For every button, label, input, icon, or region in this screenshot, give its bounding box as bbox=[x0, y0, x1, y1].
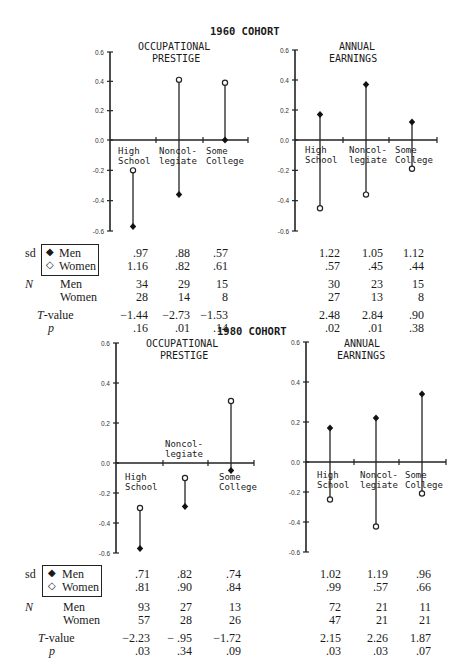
cat-label-nc-op1980: Noncol-legiate bbox=[165, 439, 203, 459]
value: .66 bbox=[401, 580, 431, 595]
value: 21 bbox=[401, 613, 431, 628]
svg-text:0.2: 0.2 bbox=[95, 107, 104, 114]
value: .61 bbox=[198, 259, 228, 274]
cat-label-nc-ae1960: Noncol-legiate bbox=[349, 145, 387, 165]
value: .03 bbox=[358, 644, 388, 659]
chart-title-op-1980-l1: OCCUPATIONAL bbox=[146, 338, 218, 349]
value: .03 bbox=[311, 644, 341, 659]
value: .82 bbox=[160, 259, 190, 274]
cat-label-nc-ae1980: Noncol-legiate bbox=[360, 470, 398, 490]
svg-text:0.2: 0.2 bbox=[280, 107, 289, 114]
chart-title-op-1960-l1: OCCUPATIONAL bbox=[138, 41, 210, 52]
value: .44 bbox=[394, 259, 424, 274]
chart-title-ae-1960-l1: ANNUAL bbox=[339, 41, 375, 52]
value: .01 bbox=[160, 321, 190, 336]
svg-text:0.0: 0.0 bbox=[291, 459, 300, 466]
value: .38 bbox=[394, 321, 424, 336]
svg-text:0.4: 0.4 bbox=[101, 380, 110, 387]
svg-text:0.0: 0.0 bbox=[95, 137, 104, 144]
value: .34 bbox=[162, 644, 192, 659]
tvalue-label: T-value bbox=[37, 308, 74, 323]
open-diamond-icon: ◇ bbox=[48, 580, 56, 591]
cohort-1960-title: 1960 COHORT bbox=[210, 25, 280, 37]
p-label: p bbox=[48, 321, 54, 336]
value: .03 bbox=[120, 644, 150, 659]
cat-label-hs-ae1960: HighSchool bbox=[305, 145, 338, 165]
svg-text:-0.6: -0.6 bbox=[289, 549, 301, 556]
value: 8 bbox=[198, 290, 228, 305]
n-women-label: Women bbox=[63, 613, 100, 628]
svg-text:0.2: 0.2 bbox=[291, 419, 300, 426]
value: .57 bbox=[358, 580, 388, 595]
p-label: p bbox=[49, 644, 55, 659]
svg-text:-0.4: -0.4 bbox=[99, 520, 111, 527]
n-women-label: Women bbox=[60, 290, 97, 305]
value: 28 bbox=[162, 613, 192, 628]
value: 1.16 bbox=[118, 259, 148, 274]
svg-text:0.4: 0.4 bbox=[95, 78, 104, 85]
value: .01 bbox=[353, 321, 383, 336]
sd-label: sd bbox=[25, 246, 36, 261]
open-diamond-icon: ◇ bbox=[46, 259, 54, 270]
svg-text:-0.6: -0.6 bbox=[278, 228, 290, 235]
value: .90 bbox=[162, 580, 192, 595]
value: .02 bbox=[310, 321, 340, 336]
value: 13 bbox=[353, 290, 383, 305]
svg-text:0.4: 0.4 bbox=[280, 77, 289, 84]
svg-text:-0.4: -0.4 bbox=[289, 519, 301, 526]
svg-text:-0.2: -0.2 bbox=[278, 167, 290, 174]
value: .16 bbox=[118, 321, 148, 336]
cat-label-hs-ae1980: HighSchool bbox=[317, 470, 350, 490]
svg-text:-0.2: -0.2 bbox=[99, 490, 111, 497]
tvalue-label: T-value bbox=[38, 631, 75, 646]
legend-women: Women bbox=[62, 580, 99, 595]
n-label: N bbox=[25, 277, 33, 292]
chart-title-ae-1980-l1: ANNUAL bbox=[344, 338, 380, 349]
cat-label-sc-op1980: SomeCollege bbox=[219, 472, 257, 492]
svg-text:-0.6: -0.6 bbox=[93, 228, 105, 235]
svg-text:-0.6: -0.6 bbox=[99, 550, 111, 557]
filled-diamond-icon: ◆ bbox=[46, 246, 54, 257]
chart-title-op-1980-l2: PRESTIGE bbox=[160, 350, 208, 361]
cat-label-nc-op1960: Noncol-legiate bbox=[159, 146, 197, 166]
value: .14 bbox=[198, 321, 228, 336]
filled-diamond-icon: ◆ bbox=[48, 567, 56, 578]
svg-text:-0.2: -0.2 bbox=[289, 489, 301, 496]
legend-women: Women bbox=[59, 259, 96, 274]
n-label: N bbox=[25, 600, 33, 615]
svg-text:0.4: 0.4 bbox=[291, 379, 300, 386]
value: 26 bbox=[211, 613, 241, 628]
value: 57 bbox=[120, 613, 150, 628]
chart-title-op-1960-l2: PRESTIGE bbox=[152, 53, 200, 64]
value: .57 bbox=[310, 259, 340, 274]
cat-label-sc-op1960: SomeCollege bbox=[206, 146, 244, 166]
svg-text:0.6: 0.6 bbox=[95, 49, 104, 56]
svg-text:0.6: 0.6 bbox=[101, 340, 110, 347]
value: .45 bbox=[353, 259, 383, 274]
svg-text:0.0: 0.0 bbox=[101, 460, 110, 467]
svg-text:0.6: 0.6 bbox=[280, 47, 289, 54]
value: .99 bbox=[311, 580, 341, 595]
sd-label: sd bbox=[25, 567, 36, 582]
value: 27 bbox=[310, 290, 340, 305]
svg-text:0.6: 0.6 bbox=[291, 339, 300, 346]
cat-label-sc-ae1980: SomeCollege bbox=[405, 470, 443, 490]
value: .07 bbox=[401, 644, 431, 659]
cat-label-hs-op1960: HighSchool bbox=[118, 146, 151, 166]
svg-text:-0.2: -0.2 bbox=[93, 167, 105, 174]
chart-title-ae-1960-l2: EARNINGS bbox=[329, 53, 377, 64]
svg-text:0.0: 0.0 bbox=[280, 137, 289, 144]
value: .81 bbox=[120, 580, 150, 595]
value: 28 bbox=[118, 290, 148, 305]
value: 14 bbox=[160, 290, 190, 305]
chart-title-ae-1980-l2: EARNINGS bbox=[337, 350, 385, 361]
value: 47 bbox=[311, 613, 341, 628]
svg-text:-0.4: -0.4 bbox=[93, 197, 105, 204]
svg-text:-0.4: -0.4 bbox=[278, 197, 290, 204]
cat-label-sc-ae1960: SomeCollege bbox=[395, 145, 433, 165]
cat-label-hs-op1980: HighSchool bbox=[125, 472, 158, 492]
value: .84 bbox=[211, 580, 241, 595]
value: 8 bbox=[394, 290, 424, 305]
svg-text:0.2: 0.2 bbox=[101, 420, 110, 427]
value: .09 bbox=[211, 644, 241, 659]
